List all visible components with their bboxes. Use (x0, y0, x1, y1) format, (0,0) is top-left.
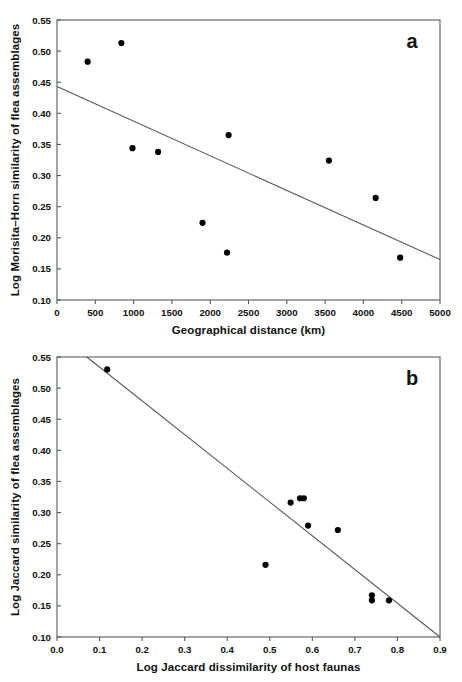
y-axis-tick-label: 0.10 (32, 295, 51, 306)
data-point (288, 500, 294, 506)
data-point (118, 40, 124, 46)
x-axis-tick-label: 3000 (276, 307, 298, 318)
data-point (373, 195, 379, 201)
panel-letter-a: a (406, 30, 418, 52)
y-axis-tick-label: 0.35 (32, 476, 51, 487)
y-axis-tick-label: 0.55 (32, 352, 51, 363)
y-axis-tick-label: 0.30 (32, 170, 51, 181)
x-axis-tick-label: 0.6 (306, 644, 320, 655)
x-axis-tick-label: 0.1 (93, 644, 107, 655)
data-point (85, 59, 91, 65)
x-axis-tick-label: 5000 (429, 307, 451, 318)
data-point (224, 250, 230, 256)
y-axis-title: Log Jaccard similarity of flea assemblag… (9, 378, 21, 616)
x-axis-tick-label: 0.4 (220, 644, 234, 655)
panel-b: 0.00.10.20.30.40.50.60.70.80.90.100.150.… (0, 340, 462, 682)
x-axis-tick-label: 0.0 (50, 644, 63, 655)
y-axis-tick-label: 0.25 (32, 201, 51, 212)
data-point (104, 366, 110, 372)
x-axis-tick-label: 0.8 (391, 644, 405, 655)
y-axis-tick-label: 0.20 (32, 569, 51, 580)
x-axis-tick-label: 4500 (391, 307, 413, 318)
x-axis-title: Log Jaccard dissimilarity of host faunas (137, 661, 361, 673)
x-axis-tick-label: 1500 (161, 307, 183, 318)
y-axis-tick-label: 0.35 (32, 139, 51, 150)
data-point (369, 597, 375, 603)
x-axis-tick-label: 2000 (199, 307, 221, 318)
x-axis-tick-label: 0.5 (263, 644, 277, 655)
y-axis-tick-label: 0.50 (32, 383, 51, 394)
data-point (326, 158, 332, 164)
plot-frame (57, 357, 440, 637)
scatter-plot-b: 0.00.10.20.30.40.50.60.70.80.90.100.150.… (0, 340, 462, 682)
data-point (386, 597, 392, 603)
y-axis-tick-label: 0.40 (32, 445, 51, 456)
x-axis-tick-label: 2500 (238, 307, 260, 318)
x-axis-tick-label: 0 (54, 307, 59, 318)
y-axis-tick-label: 0.15 (32, 600, 51, 611)
data-point (155, 149, 161, 155)
data-point (305, 523, 311, 529)
x-axis-tick-label: 500 (87, 307, 103, 318)
data-point (225, 132, 231, 138)
y-axis-tick-label: 0.55 (32, 15, 51, 26)
data-point (335, 527, 341, 533)
scatter-plot-a: 0500100015002000250030003500400045005000… (0, 0, 462, 340)
data-point (397, 255, 403, 261)
panel-a: 0500100015002000250030003500400045005000… (0, 0, 462, 340)
data-point (262, 562, 268, 568)
regression-trendline (57, 87, 440, 260)
y-axis-tick-label: 0.10 (32, 632, 51, 643)
panel-letter-b: b (406, 367, 418, 389)
y-axis-tick-label: 0.15 (32, 263, 51, 274)
data-point (129, 145, 135, 151)
y-axis-tick-label: 0.40 (32, 108, 51, 119)
x-axis-tick-label: 3500 (314, 307, 336, 318)
figure-container: 0500100015002000250030003500400045005000… (0, 0, 462, 682)
y-axis-tick-label: 0.50 (32, 46, 51, 57)
regression-trendline (87, 357, 440, 637)
y-axis-tick-label: 0.45 (32, 77, 51, 88)
x-axis-tick-label: 0.3 (178, 644, 192, 655)
data-point (199, 220, 205, 226)
x-axis-tick-label: 1000 (123, 307, 145, 318)
plot-frame (57, 20, 440, 300)
x-axis-tick-label: 0.9 (433, 644, 447, 655)
data-point (301, 495, 307, 501)
x-axis-tick-label: 4000 (353, 307, 375, 318)
x-axis-tick-label: 0.2 (135, 644, 148, 655)
x-axis-tick-label: 0.7 (348, 644, 361, 655)
y-axis-tick-label: 0.25 (32, 538, 51, 549)
y-axis-tick-label: 0.45 (32, 414, 51, 425)
y-axis-tick-label: 0.30 (32, 507, 51, 518)
y-axis-title: Log Morisita–Horn similarity of flea ass… (9, 24, 21, 297)
y-axis-tick-label: 0.20 (32, 232, 51, 243)
x-axis-title: Geographical distance (km) (172, 324, 325, 336)
